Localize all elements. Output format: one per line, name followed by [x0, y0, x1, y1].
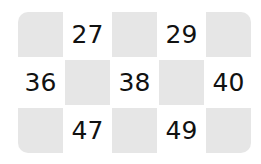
grid-cell-r1c1	[65, 60, 110, 105]
grid-cell-r0c2	[112, 12, 157, 57]
grid-cell-r1c2: 38	[112, 60, 157, 105]
grid-cell-r0c1: 27	[65, 12, 110, 57]
grid-cell-r1c4: 40	[206, 60, 251, 105]
grid-cell-r0c3: 29	[159, 12, 204, 57]
number-grid: 27 29 36 38 40 47 49	[18, 12, 251, 153]
grid-cell-r2c4	[206, 108, 251, 153]
grid-cell-r0c0	[18, 12, 63, 57]
grid-cell-r2c3: 49	[159, 108, 204, 153]
grid-cell-r2c2	[112, 108, 157, 153]
grid-cell-r1c3	[159, 60, 204, 105]
grid-cell-r1c0: 36	[18, 60, 63, 105]
grid-cell-r0c4	[206, 12, 251, 57]
grid-cell-r2c1: 47	[65, 108, 110, 153]
grid-cell-r2c0	[18, 108, 63, 153]
